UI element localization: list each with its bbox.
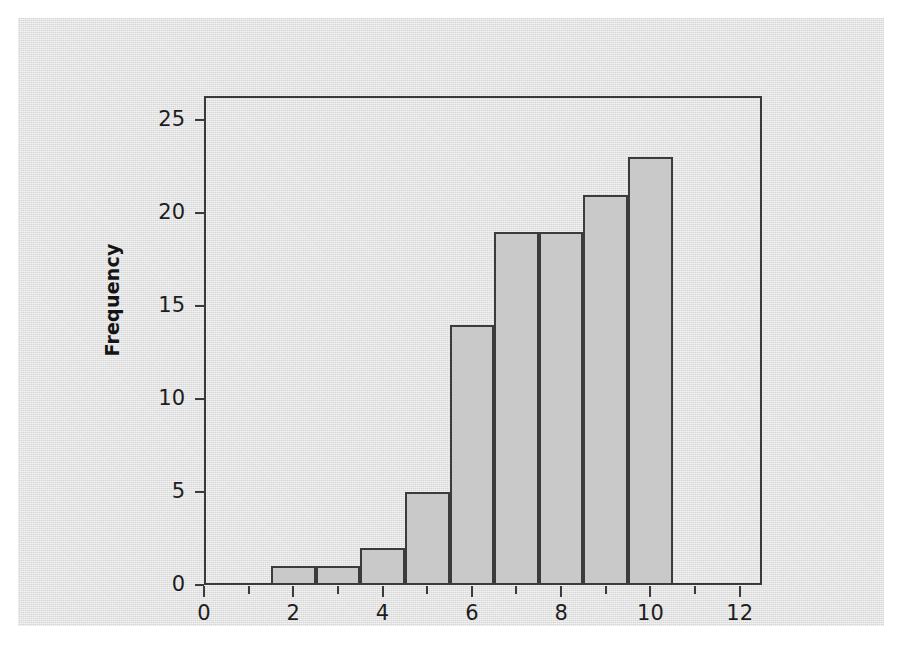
histogram-bar xyxy=(360,548,405,585)
x-axis-tick-mark xyxy=(739,586,741,597)
y-axis-tick-mark xyxy=(195,491,204,493)
x-axis-tick-mark xyxy=(292,586,294,597)
y-axis-tick-mark xyxy=(195,398,204,400)
y-axis-tick-mark xyxy=(195,212,204,214)
y-axis-tick-label: 20 xyxy=(139,202,185,223)
y-axis-tick-label: 0 xyxy=(139,574,185,595)
y-axis-tick-mark xyxy=(195,305,204,307)
x-axis-tick-label: 8 xyxy=(533,603,589,624)
histogram-bar xyxy=(405,492,450,585)
y-axis-tick-label: 10 xyxy=(139,388,185,409)
x-axis-minor-tick-mark xyxy=(605,586,607,594)
x-axis-minor-tick-mark xyxy=(515,586,517,594)
y-axis-tick-label: 15 xyxy=(139,295,185,316)
histogram-bar xyxy=(450,325,495,585)
x-axis-tick-label: 0 xyxy=(176,603,232,624)
y-axis-tick-mark xyxy=(195,119,204,121)
histogram-bars xyxy=(204,96,762,585)
histogram-bar xyxy=(271,566,316,585)
x-axis-minor-tick-mark xyxy=(426,586,428,594)
histogram-bar xyxy=(316,566,361,585)
x-axis-tick-label: 12 xyxy=(712,603,768,624)
figure-canvas: Frequency 0510152025 024681012 xyxy=(0,0,904,652)
y-axis-tick-label: 5 xyxy=(139,481,185,502)
x-axis-tick-label: 2 xyxy=(265,603,321,624)
y-axis-tick-label: 25 xyxy=(139,109,185,130)
x-axis-tick-mark xyxy=(471,586,473,597)
x-axis-minor-tick-mark xyxy=(337,586,339,594)
histogram-bar xyxy=(539,232,584,585)
histogram-bar xyxy=(494,232,539,585)
x-axis-tick-label: 6 xyxy=(444,603,500,624)
x-axis-tick-mark xyxy=(560,586,562,597)
x-axis-tick-label: 4 xyxy=(355,603,411,624)
x-axis-tick-mark xyxy=(382,586,384,597)
y-axis-label: Frequency xyxy=(101,220,123,380)
x-axis-minor-tick-mark xyxy=(248,586,250,594)
x-axis-tick-label: 10 xyxy=(622,603,678,624)
x-axis-minor-tick-mark xyxy=(694,586,696,594)
x-axis-tick-mark xyxy=(649,586,651,597)
histogram-bar xyxy=(583,195,628,585)
histogram-bar xyxy=(628,157,673,585)
x-axis-tick-mark xyxy=(203,586,205,597)
